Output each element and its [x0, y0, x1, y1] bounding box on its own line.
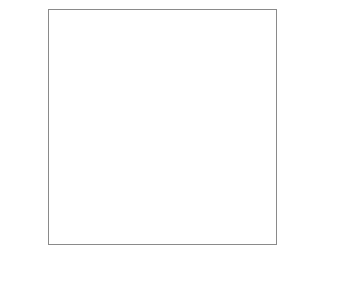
plot-frame — [48, 9, 277, 245]
plot-area — [49, 10, 276, 244]
bar-chart-figure — [0, 0, 346, 301]
legend — [286, 6, 344, 8]
